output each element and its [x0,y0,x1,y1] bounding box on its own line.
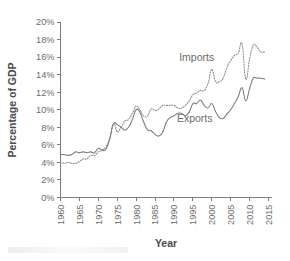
y-tick-label: 16% [36,52,54,62]
y-tick-label: 12% [36,88,54,98]
chart-container: 0%2%4%6%8%10%12%14%16%18%20% Percentage … [0,0,290,261]
y-tick-label: 2% [41,175,54,185]
y-tick-label: 0% [41,193,54,203]
line-chart: 0%2%4%6%8%10%12%14%16%18%20% Percentage … [0,0,290,261]
y-tick-label: 8% [41,123,54,133]
y-tick-label: 4% [41,158,54,168]
x-tick-label: 2015 [264,205,274,225]
series-line-imports [61,43,265,164]
x-tick-label: 1980 [132,205,142,225]
y-axis-ticks [57,22,61,198]
page-artifact [8,247,128,253]
y-tick-label: 20% [36,17,54,27]
series-annotations: ImportsExports [177,51,214,124]
x-axis-ticks [61,198,269,202]
x-axis-title: Year [155,237,177,249]
series-group [61,43,265,164]
x-tick-label: 2000 [207,205,217,225]
x-tick-label: 1970 [94,205,104,225]
y-axis-tick-labels: 0%2%4%6%8%10%12%14%16%18%20% [36,17,54,203]
x-tick-label: 2005 [226,205,236,225]
y-tick-label: 10% [36,105,54,115]
y-tick-label: 6% [41,140,54,150]
x-tick-label: 1990 [169,205,179,225]
x-axis-tick-labels: 1960196519701975198019851990199520002005… [56,205,274,225]
series-label-imports: Imports [179,51,214,63]
x-tick-label: 1975 [113,205,123,225]
x-tick-label: 1965 [75,205,85,225]
y-tick-label: 18% [36,35,54,45]
x-tick-label: 1995 [188,205,198,225]
y-tick-label: 14% [36,70,54,80]
series-line-exports [61,77,265,155]
x-tick-label: 2010 [245,205,255,225]
y-axis-title: Percentage of GDP [6,62,18,157]
x-tick-label: 1985 [150,205,160,225]
x-tick-label: 1960 [56,205,66,225]
x-axis-group: 1960196519701975198019851990199520002005… [56,198,274,250]
y-axis-group: 0%2%4%6%8%10%12%14%16%18%20% Percentage … [6,17,61,203]
series-label-exports: Exports [177,112,213,124]
